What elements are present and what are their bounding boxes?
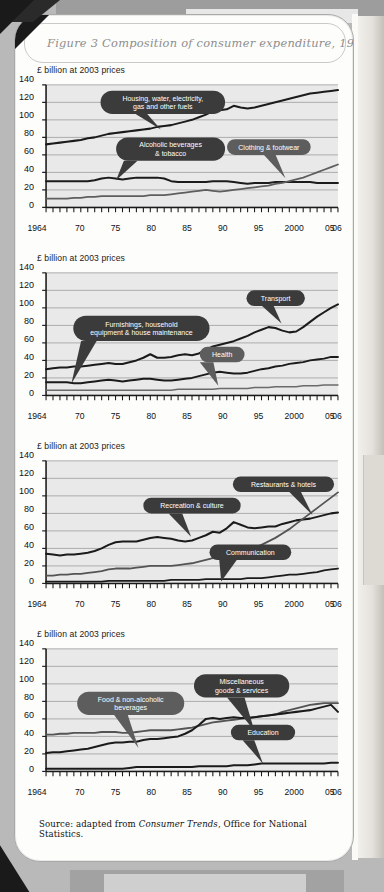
x-tick-label: 90 <box>218 787 228 797</box>
y-tick-label: 80 <box>24 316 34 326</box>
x-axis-labels: 196470758085909520000506 <box>37 223 337 237</box>
y-tick-label: 40 <box>24 728 34 738</box>
y-tick-label: 140 <box>19 450 34 460</box>
x-tick-label: 2000 <box>285 223 304 233</box>
callout-label: Housing, water, electricity, <box>122 95 203 103</box>
x-tick-label: 95 <box>254 223 264 233</box>
page-edge-notch <box>363 455 384 585</box>
y-tick-label: 140 <box>19 638 34 648</box>
callout-label: Recreation & culture <box>160 502 224 509</box>
x-tick-label: 70 <box>75 787 85 797</box>
x-tick-label: 80 <box>147 223 157 233</box>
y-tick-label: 0 <box>29 388 34 398</box>
callout-label: Clothing & footwear <box>238 144 300 152</box>
callout-label: Health <box>212 351 232 358</box>
y-tick-label: 40 <box>24 164 34 174</box>
y-axis-labels: 020406080100120140 <box>15 449 37 575</box>
y-axis-caption: £ billion at 2003 prices <box>37 629 125 639</box>
x-tick-label: 80 <box>147 787 157 797</box>
chart-svg: Housing, water, electricity,gas and othe… <box>37 79 347 223</box>
source-prefix: Source: adapted from <box>39 819 139 829</box>
y-tick-label: 140 <box>19 262 34 272</box>
x-tick-label: 75 <box>111 599 121 609</box>
x-tick-label: 90 <box>218 223 228 233</box>
y-tick-label: 20 <box>24 182 34 192</box>
y-tick-label: 120 <box>19 468 34 478</box>
x-tick-label: 75 <box>111 223 121 233</box>
x-tick-label: 06 <box>332 223 342 233</box>
y-axis-labels: 020406080100120140 <box>15 637 37 763</box>
x-tick-label: 95 <box>254 787 264 797</box>
y-tick-label: 0 <box>29 764 34 774</box>
y-axis-labels: 020406080100120140 <box>15 73 37 199</box>
y-axis-caption: £ billion at 2003 prices <box>37 65 125 75</box>
x-tick-label: 80 <box>147 411 157 421</box>
chart-panels: £ billion at 2003 prices0204060801001201… <box>15 65 353 817</box>
x-tick-label: 75 <box>111 787 121 797</box>
plot-area: 020406080100120140Restaurants & hotelsRe… <box>37 455 337 593</box>
y-tick-label: 80 <box>24 504 34 514</box>
x-tick-label: 95 <box>254 599 264 609</box>
chart-panel-1: £ billion at 2003 prices0204060801001201… <box>15 65 353 253</box>
callout-label: Restaurants & hotels <box>251 481 316 488</box>
callout-label: gas and other fuels <box>133 103 193 111</box>
x-tick-label: 90 <box>218 599 228 609</box>
y-tick-label: 120 <box>19 280 34 290</box>
y-tick-label: 100 <box>19 110 34 120</box>
y-tick-label: 0 <box>29 576 34 586</box>
x-axis-labels: 196470758085909520000506 <box>37 411 337 425</box>
x-tick-label: 85 <box>182 599 192 609</box>
y-axis-caption: £ billion at 2003 prices <box>37 441 125 451</box>
source-publication: Consumer Trends <box>139 819 218 829</box>
source-note: Source: adapted from Consumer Trends, Of… <box>39 819 353 839</box>
figure-card: Figure 3 Composition of consumer expendi… <box>14 14 354 862</box>
y-tick-label: 0 <box>29 200 34 210</box>
x-tick-label: 06 <box>332 599 342 609</box>
y-tick-label: 100 <box>19 674 34 684</box>
x-tick-label: 2000 <box>285 599 304 609</box>
callout-label: goods & services <box>215 687 269 695</box>
y-tick-label: 100 <box>19 298 34 308</box>
chart-svg: TransportFurnishings, householdequipment… <box>37 267 347 411</box>
x-tick-label: 95 <box>254 411 264 421</box>
y-tick-label: 60 <box>24 522 34 532</box>
callout-label: beverages <box>114 704 147 712</box>
x-tick-label: 1964 <box>27 411 46 421</box>
scan-artifact-bottom-highlight <box>104 874 306 892</box>
y-tick-label: 80 <box>24 128 34 138</box>
y-tick-label: 60 <box>24 146 34 156</box>
x-tick-label: 85 <box>182 223 192 233</box>
plot-area: 020406080100120140TransportFurnishings, … <box>37 267 337 405</box>
x-tick-label: 70 <box>75 599 85 609</box>
plot-area: 020406080100120140Housing, water, electr… <box>37 79 337 217</box>
x-tick-label: 06 <box>332 411 342 421</box>
y-axis-labels: 020406080100120140 <box>15 261 37 387</box>
page-edge-right <box>358 16 384 858</box>
x-axis-labels: 196470758085909520000506 <box>37 599 337 613</box>
x-tick-label: 70 <box>75 411 85 421</box>
callout-label: Food & non-alcoholic <box>98 696 164 703</box>
x-axis-labels: 196470758085909520000506 <box>37 787 337 801</box>
y-tick-label: 40 <box>24 540 34 550</box>
y-tick-label: 20 <box>24 746 34 756</box>
x-tick-label: 85 <box>182 411 192 421</box>
chart-svg: Food & non-alcoholicbeveragesMiscellaneo… <box>37 643 347 787</box>
y-tick-label: 100 <box>19 486 34 496</box>
callout-label: Education <box>247 729 278 736</box>
y-tick-label: 80 <box>24 692 34 702</box>
page-title: Figure 3 Composition of consumer expendi… <box>25 36 354 50</box>
callout-label: Communication <box>226 549 275 556</box>
x-tick-label: 2000 <box>285 787 304 797</box>
x-tick-label: 1964 <box>27 223 46 233</box>
y-tick-label: 20 <box>24 370 34 380</box>
callout-label: Furnishings, household <box>105 321 177 329</box>
plot-area: 020406080100120140Food & non-alcoholicbe… <box>37 643 337 781</box>
x-tick-label: 70 <box>75 223 85 233</box>
y-tick-label: 140 <box>19 74 34 84</box>
x-tick-label: 90 <box>218 411 228 421</box>
y-tick-label: 20 <box>24 558 34 568</box>
y-tick-label: 60 <box>24 710 34 720</box>
figure-title-box: Figure 3 Composition of consumer expendi… <box>24 23 346 63</box>
y-tick-label: 60 <box>24 334 34 344</box>
x-tick-label: 85 <box>182 787 192 797</box>
